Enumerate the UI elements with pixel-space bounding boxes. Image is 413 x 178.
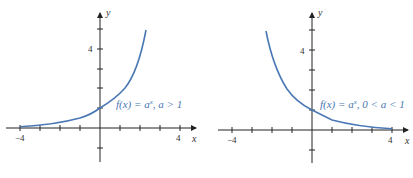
y-tick-label-4: 4 — [300, 46, 305, 56]
x-tick-label-4: 4 — [388, 135, 393, 145]
exponential-graphs: −4 4 4 x y f(x) = ax, a > 1 — [0, 0, 413, 178]
x-axis-label: x — [404, 135, 410, 146]
left-chart: −4 4 4 x y f(x) = ax, a > 1 — [6, 7, 197, 162]
y-tick-label-4: 4 — [88, 44, 93, 54]
decay-curve — [266, 31, 392, 129]
x-axis-label: x — [191, 133, 197, 144]
x-tick-label-neg4: −4 — [15, 133, 25, 143]
right-function-label: f(x) = ax, 0 < a < 1 — [320, 98, 405, 111]
y-axis-label: y — [105, 7, 111, 18]
y-axis-label: y — [317, 7, 323, 18]
left-function-label: f(x) = ax, a > 1 — [116, 98, 182, 111]
growth-curve — [20, 30, 146, 127]
x-tick-label-neg4: −4 — [227, 135, 237, 145]
x-tick-label-4: 4 — [176, 133, 181, 143]
right-chart: −4 4 4 x y f(x) = ax, 0 < a < 1 — [218, 7, 410, 163]
